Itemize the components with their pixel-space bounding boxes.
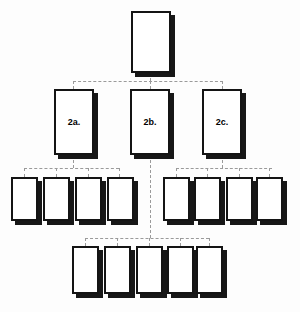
connector-level3-right-drops-2: [207, 168, 208, 177]
node-level3-right-4[interactable]: [256, 177, 283, 221]
connector-level3-right-drops-3: [239, 168, 240, 177]
connector-level3-right-drops-4: [269, 168, 270, 177]
connector-level3-left-drops-2: [56, 168, 57, 177]
node-level3-right-3[interactable]: [226, 177, 253, 221]
connector-level2-drops-3: [222, 81, 223, 89]
node-label: 2b.: [143, 118, 156, 127]
connector-root-stem: [150, 73, 151, 81]
connector-level2-bus: [73, 81, 223, 82]
node-level2-2c[interactable]: 2c.: [202, 89, 242, 155]
connector-level3-right-stem: [222, 155, 223, 168]
connector-level3-left-stem: [73, 155, 74, 168]
node-level4-2[interactable]: [104, 246, 131, 294]
node-root[interactable]: [131, 11, 171, 73]
connector-level3-left-bus: [24, 168, 119, 169]
node-level3-left-1[interactable]: [11, 177, 38, 221]
node-level3-left-2[interactable]: [43, 177, 70, 221]
connector-level3-left-drops-1: [24, 168, 25, 177]
connector-level3-left-drops-4: [119, 168, 120, 177]
node-level4-5[interactable]: [196, 246, 223, 294]
node-label: 2a.: [68, 118, 81, 127]
node-level3-right-1[interactable]: [163, 177, 190, 221]
connector-level4-drops-3: [149, 238, 150, 246]
node-level3-right-2[interactable]: [194, 177, 221, 221]
connector-level4-stem: [150, 155, 151, 238]
connector-level3-right-drops-1: [176, 168, 177, 177]
connector-level4-bus: [85, 238, 209, 239]
diagram-canvas: 2a.2b.2c.: [0, 0, 300, 312]
node-level4-1[interactable]: [72, 246, 99, 294]
node-level3-left-4[interactable]: [107, 177, 134, 221]
connector-level3-right-bus: [176, 168, 272, 169]
connector-level4-drops-2: [117, 238, 118, 246]
node-level3-left-3[interactable]: [75, 177, 102, 221]
connector-level4-drops-1: [85, 238, 86, 246]
connector-level3-left-drops-3: [88, 168, 89, 177]
node-level2-2b[interactable]: 2b.: [130, 89, 170, 155]
connector-level2-drops-1: [73, 81, 74, 89]
node-level4-3[interactable]: [136, 246, 163, 294]
connector-level2-drops-2: [150, 81, 151, 89]
node-level4-4[interactable]: [167, 246, 194, 294]
node-level2-2a[interactable]: 2a.: [54, 89, 94, 155]
node-label: 2c.: [216, 118, 229, 127]
connector-level4-drops-4: [180, 238, 181, 246]
connector-level4-drops-5: [209, 238, 210, 246]
